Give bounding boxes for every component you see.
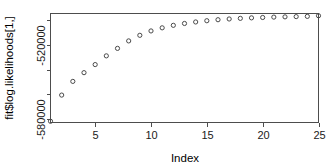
y-axis-tick-labels: -580000-520000 xyxy=(35,25,47,139)
y-tick-label: -580000 xyxy=(35,99,47,139)
y-axis-title: fit$log.likelihoods[1,] xyxy=(3,16,15,120)
data-point xyxy=(238,16,242,20)
data-point xyxy=(160,26,164,30)
data-point xyxy=(261,15,265,19)
data-point xyxy=(216,18,220,22)
data-point xyxy=(127,39,131,43)
data-point xyxy=(182,21,186,25)
x-axis-title: Index xyxy=(171,152,199,164)
data-point xyxy=(294,15,298,19)
data-point xyxy=(305,14,309,18)
data-point-series xyxy=(48,14,320,124)
x-tick-label: 5 xyxy=(92,129,98,141)
data-point xyxy=(205,19,209,23)
x-tick-label: 10 xyxy=(145,129,157,141)
data-point xyxy=(93,62,97,66)
data-point xyxy=(104,54,108,58)
data-point xyxy=(149,29,153,33)
chart-figure: -580000-520000 510152025 Index fit$log.l… xyxy=(0,0,331,168)
data-point xyxy=(272,15,276,19)
data-point xyxy=(138,33,142,37)
data-point xyxy=(227,17,231,21)
data-point xyxy=(194,20,198,24)
x-axis-ticks xyxy=(96,123,320,127)
data-point xyxy=(60,93,64,97)
x-tick-label: 25 xyxy=(313,129,325,141)
data-point xyxy=(249,16,253,20)
scatter-plot: -580000-520000 510152025 Index fit$log.l… xyxy=(0,0,331,168)
plot-panel-border xyxy=(51,14,319,123)
x-tick-label: 15 xyxy=(201,129,213,141)
x-tick-label: 20 xyxy=(257,129,269,141)
data-point xyxy=(82,71,86,75)
data-point xyxy=(115,46,119,50)
data-point xyxy=(71,79,75,83)
data-point xyxy=(283,15,287,19)
x-axis-tick-labels: 510152025 xyxy=(92,129,325,141)
data-point xyxy=(171,23,175,27)
y-tick-label: -520000 xyxy=(35,25,47,65)
